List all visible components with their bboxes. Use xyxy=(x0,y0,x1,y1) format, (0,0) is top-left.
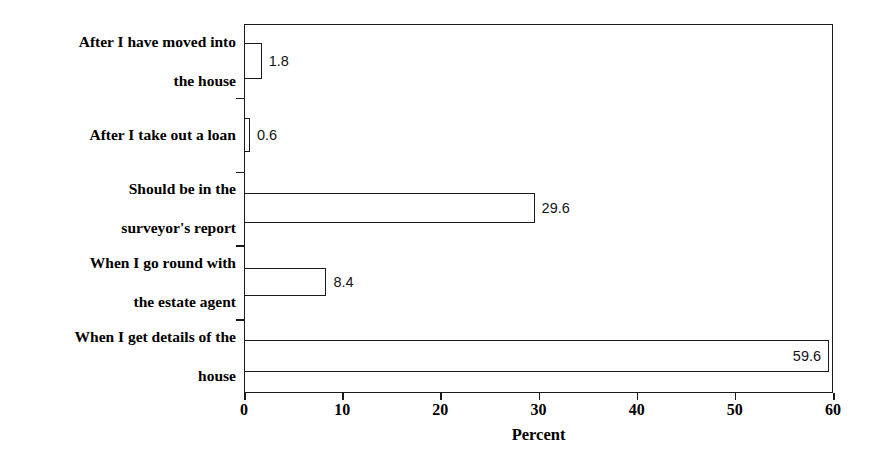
y-axis-tick-0 xyxy=(236,98,244,100)
x-axis-tick-3 xyxy=(539,393,541,400)
bar-slot-2: 29.6 xyxy=(244,172,833,246)
bar-when-i-get-details-of-the-house[interactable] xyxy=(244,340,829,372)
category-label-4-line1: When I get details of the xyxy=(8,327,236,347)
bar-after-i-take-out-a-loan[interactable] xyxy=(244,118,250,152)
bar-slot-4: 59.6 xyxy=(244,319,833,393)
x-axis-tick-1 xyxy=(342,393,344,400)
category-label-3: When I go round with the estate agent xyxy=(8,245,236,319)
bar-value-label-3: 8.4 xyxy=(333,275,353,290)
category-label-1: After I take out a loan xyxy=(8,98,236,172)
category-label-4: When I get details of the house xyxy=(8,319,236,393)
bar-value-label-1: 0.6 xyxy=(257,128,277,143)
x-axis-tick-4 xyxy=(637,393,639,400)
category-label-0: After I have moved into the house xyxy=(8,24,236,98)
bar-value-label-4: 59.6 xyxy=(773,349,821,364)
category-label-2: Should be in the surveyor's report xyxy=(8,172,236,246)
x-axis-tick-0 xyxy=(244,393,246,400)
category-label-3-line1: When I go round with xyxy=(8,253,236,273)
bar-slot-1: 0.6 xyxy=(244,98,833,172)
y-axis-tick-3 xyxy=(236,319,244,321)
x-axis-title: Percent xyxy=(244,427,833,444)
bars-layer: 1.8 0.6 29.6 8.4 59.6 xyxy=(244,24,833,393)
x-axis-tick-label-3: 30 xyxy=(531,402,547,418)
bar-chart: After I have moved into the house After … xyxy=(0,0,881,459)
bar-slot-3: 8.4 xyxy=(244,245,833,319)
x-axis-tick-label-0: 0 xyxy=(240,402,248,418)
bar-value-label-2: 29.6 xyxy=(542,201,570,216)
category-label-3-line2: the estate agent xyxy=(8,292,236,312)
y-axis-tick-2 xyxy=(236,245,244,247)
x-axis-tick-label-1: 10 xyxy=(334,402,350,418)
x-axis-tick-5 xyxy=(735,393,737,400)
category-label-0-line2: the house xyxy=(8,71,236,91)
bar-should-be-in-the-surveyors-report[interactable] xyxy=(244,193,535,223)
x-axis-tick-label-4: 40 xyxy=(629,402,645,418)
category-label-0-line1: After I have moved into xyxy=(8,32,236,52)
bar-after-i-have-moved-into-the-house[interactable] xyxy=(244,43,262,79)
bar-value-label-0: 1.8 xyxy=(269,54,289,69)
bar-slot-0: 1.8 xyxy=(244,24,833,98)
x-axis-tick-2 xyxy=(440,393,442,400)
category-label-2-line2: surveyor's report xyxy=(8,218,236,238)
category-label-4-line2: house xyxy=(8,366,236,386)
category-label-1-line1: After I take out a loan xyxy=(8,125,236,145)
x-axis-tick-6 xyxy=(833,393,835,400)
x-axis-tick-label-6: 60 xyxy=(825,402,841,418)
category-label-2-line1: Should be in the xyxy=(8,179,236,199)
y-axis-tick-1 xyxy=(236,172,244,174)
bar-when-i-go-round-with-the-estate-agent[interactable] xyxy=(244,268,326,296)
x-axis-tick-label-2: 20 xyxy=(432,402,448,418)
x-axis-tick-label-5: 50 xyxy=(727,402,743,418)
